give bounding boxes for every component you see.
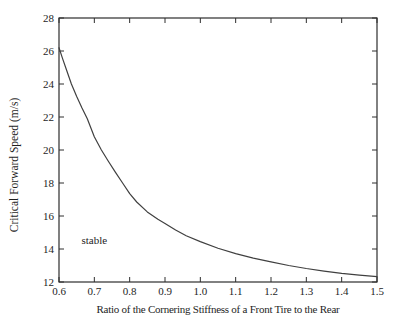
x-tick-label: 0.8	[123, 285, 137, 297]
x-axis-title: Ratio of the Cornering Stiffness of a Fr…	[97, 303, 341, 315]
y-tick-label: 20	[43, 144, 55, 156]
x-tick-label: 0.9	[158, 285, 172, 297]
x-tick-label: 1.3	[299, 285, 313, 297]
x-tick-label: 0.6	[52, 285, 66, 297]
y-tick-label: 14	[43, 243, 55, 255]
x-tick-label: 1.1	[229, 285, 243, 297]
x-tick-label: 0.7	[87, 285, 101, 297]
x-tick-label: 1.0	[193, 285, 207, 297]
y-tick-label: 28	[43, 12, 55, 24]
x-tick-label: 1.4	[335, 285, 349, 297]
annotation-stable: stable	[81, 234, 107, 246]
y-tick-label: 12	[43, 276, 54, 288]
y-axis-title: Critical Forward Speed (m/s)	[8, 98, 21, 233]
y-tick-label: 22	[43, 111, 54, 123]
x-tick-label: 1.5	[370, 285, 384, 297]
y-tick-label: 18	[43, 177, 55, 189]
chart-figure: 0.60.70.80.91.01.11.21.31.41.51214161820…	[0, 0, 400, 331]
x-tick-label: 1.2	[264, 285, 278, 297]
critical-speed-chart: 0.60.70.80.91.01.11.21.31.41.51214161820…	[0, 0, 400, 331]
y-tick-label: 24	[43, 78, 55, 90]
y-tick-label: 16	[43, 210, 55, 222]
y-tick-label: 26	[43, 45, 55, 57]
